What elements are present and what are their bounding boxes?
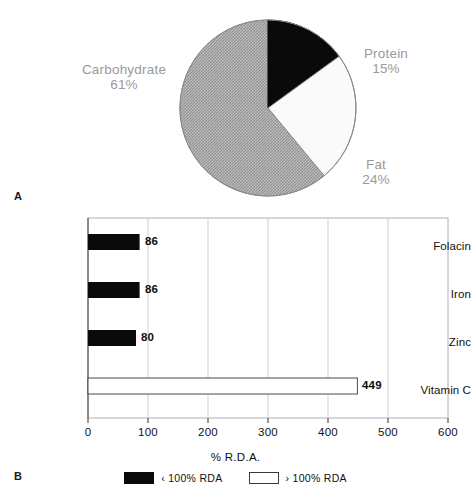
x-tick-label-100: 100 — [128, 426, 168, 438]
pie-label-protein: Protein 15% — [352, 46, 420, 76]
nutrition-figure: Carbohydrate 61% Protein 15% Fat 24% A — [0, 0, 471, 492]
bar-chart-legend: ‹ 100% RDA › 100% RDA — [0, 472, 471, 484]
pie-label-carbohydrate-name: Carbohydrate — [82, 62, 166, 77]
x-tick-label-600: 600 — [428, 426, 468, 438]
bar-value-zinc: 80 — [141, 331, 154, 343]
x-axis-ticks — [88, 418, 448, 423]
panel-a-pie-chart: Carbohydrate 61% Protein 15% Fat 24% A — [0, 0, 471, 210]
bar-category-label-folacin: Folacin — [389, 240, 471, 252]
pie-label-fat-name: Fat — [366, 157, 386, 172]
legend-swatch-hollow-icon — [249, 472, 279, 484]
pie-label-fat-value: 24% — [352, 172, 400, 187]
legend-swatch-filled-icon — [124, 472, 154, 484]
pie-label-fat: Fat 24% — [352, 157, 400, 187]
legend-label-above-rda: › 100% RDA — [286, 472, 347, 484]
bar-folacin — [88, 234, 140, 250]
bar-category-label-iron: Iron — [389, 288, 471, 300]
bar-category-label-zinc: Zinc — [389, 336, 471, 348]
pie-label-protein-value: 15% — [352, 61, 420, 76]
panel-b-bar-chart: Folacin Iron Zinc Vitamin C 86 86 80 449… — [0, 210, 471, 492]
pie-chart-graphic — [0, 0, 471, 210]
pie-label-protein-name: Protein — [364, 46, 408, 61]
bar-value-vitamin-c: 449 — [362, 379, 382, 391]
bar-vitamin-c — [88, 378, 357, 394]
panel-letter-a: A — [14, 190, 22, 202]
bar-category-label-vitamin-c: Vitamin C — [389, 384, 471, 396]
bar-chart-graphic — [0, 210, 471, 492]
bar-zinc — [88, 330, 136, 346]
bar-value-iron: 86 — [145, 283, 158, 295]
x-tick-label-0: 0 — [68, 426, 108, 438]
legend-entry-below-rda: ‹ 100% RDA — [124, 472, 222, 484]
x-tick-label-300: 300 — [248, 426, 288, 438]
bar-value-folacin: 86 — [145, 235, 158, 247]
legend-label-below-rda: ‹ 100% RDA — [161, 472, 222, 484]
x-tick-label-200: 200 — [188, 426, 228, 438]
x-axis-title: % R.D.A. — [0, 451, 471, 463]
x-tick-label-400: 400 — [308, 426, 348, 438]
pie-label-carbohydrate: Carbohydrate 61% — [66, 62, 182, 92]
legend-entry-above-rda: › 100% RDA — [249, 472, 347, 484]
panel-letter-b: B — [14, 470, 22, 482]
bar-iron — [88, 282, 140, 298]
pie-label-carbohydrate-value: 61% — [66, 77, 182, 92]
x-tick-label-500: 500 — [368, 426, 408, 438]
